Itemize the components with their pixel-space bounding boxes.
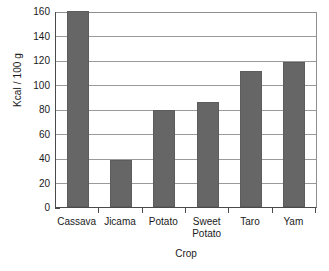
y-axis-tick-label: 0 — [20, 203, 50, 213]
y-axis-tick-label: 80 — [20, 105, 50, 115]
bar[interactable] — [283, 62, 305, 207]
bar[interactable] — [110, 160, 132, 207]
bar[interactable] — [153, 110, 175, 207]
bar-slot — [273, 12, 316, 207]
plot-area — [55, 12, 317, 208]
x-axis-tick-marks — [55, 208, 317, 213]
x-axis-category-label: Cassava — [55, 216, 98, 228]
x-axis-category-labels: CassavaJicamaPotatoSweet PotatoTaroYam — [55, 216, 317, 246]
y-axis-tick-label: 60 — [20, 130, 50, 140]
x-axis-category-label: Yam — [272, 216, 315, 228]
bar-slot — [229, 12, 272, 207]
bar-slot — [143, 12, 186, 207]
x-axis-tick-mark — [185, 208, 186, 213]
x-axis-category-label: Taro — [228, 216, 271, 228]
x-axis-tick-mark — [272, 208, 273, 213]
y-axis-tick-label: 40 — [20, 154, 50, 164]
x-axis-category-label: Sweet Potato — [185, 216, 228, 240]
bar-slot — [56, 12, 99, 207]
y-axis-tick-label: 20 — [20, 179, 50, 189]
y-axis-tick-label: 140 — [20, 32, 50, 42]
y-axis-tick-label: 160 — [20, 7, 50, 17]
bar[interactable] — [197, 102, 219, 207]
x-axis-category-label: Potato — [142, 216, 185, 228]
x-axis-tick-mark — [98, 208, 99, 213]
bars-layer — [56, 12, 316, 207]
x-axis-category-label: Jicama — [98, 216, 141, 228]
x-axis-tick-mark — [142, 208, 143, 213]
x-axis-tick-mark — [315, 208, 316, 213]
bar-chart: Kcal / 100 g 020406080100120140160 Cassa… — [0, 0, 329, 271]
y-axis-tick-labels: 020406080100120140160 — [20, 12, 50, 208]
y-axis-tick-label: 120 — [20, 56, 50, 66]
x-axis-title: Crop — [55, 248, 317, 260]
x-axis-tick-mark — [228, 208, 229, 213]
bar-slot — [99, 12, 142, 207]
y-axis-tick-label: 100 — [20, 81, 50, 91]
bar-slot — [186, 12, 229, 207]
bar[interactable] — [67, 11, 89, 207]
bar[interactable] — [240, 71, 262, 207]
